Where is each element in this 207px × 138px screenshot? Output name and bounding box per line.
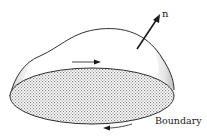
surface-diagram: n Boundary — [0, 0, 207, 138]
normal-label: n — [162, 8, 169, 19]
base-ellipse — [10, 68, 174, 124]
boundary-label: Boundary — [155, 115, 202, 126]
bottom-direction-arrow — [103, 124, 132, 131]
